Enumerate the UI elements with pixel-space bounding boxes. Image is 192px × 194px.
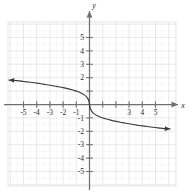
x-tick-label: 3	[127, 108, 131, 117]
graph-figure: -5-4-3-2-13455432-1-2-3-4-5 xy	[0, 0, 192, 194]
coordinate-plane-chart: -5-4-3-2-13455432-1-2-3-4-5 xy	[0, 0, 192, 194]
x-tick-label: 5	[154, 108, 158, 117]
x-tick-label: -2	[60, 108, 66, 117]
y-axis-label: y	[91, 1, 96, 10]
y-tick-label: -2	[78, 127, 84, 136]
y-tick-label: -4	[78, 154, 84, 163]
x-tick-label: -5	[20, 108, 26, 117]
y-tick-label: 2	[80, 73, 84, 82]
x-axis-label: x	[180, 101, 185, 110]
x-tick-label: -4	[34, 108, 40, 117]
y-tick-label: 3	[80, 60, 84, 69]
y-tick-label: -3	[78, 140, 84, 149]
y-tick-label: -5	[78, 167, 84, 176]
y-tick-label: 4	[80, 47, 84, 56]
y-tick-label: 5	[80, 33, 84, 42]
y-tick-label: -1	[78, 114, 84, 123]
x-tick-label: -3	[47, 108, 53, 117]
x-tick-label: 4	[140, 108, 144, 117]
